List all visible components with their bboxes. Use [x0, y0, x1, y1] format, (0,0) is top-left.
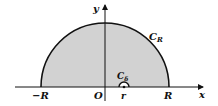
y-axis-label: y	[92, 3, 100, 14]
pos-r-label: R	[163, 90, 172, 101]
x-axis-label: x	[198, 89, 206, 100]
point-r	[123, 86, 126, 89]
contour-diagram: y x CR Cδ −R O r R	[0, 0, 218, 106]
neg-r-label: −R	[32, 90, 49, 101]
origin-label: O	[94, 90, 103, 101]
r-label: r	[121, 91, 127, 101]
